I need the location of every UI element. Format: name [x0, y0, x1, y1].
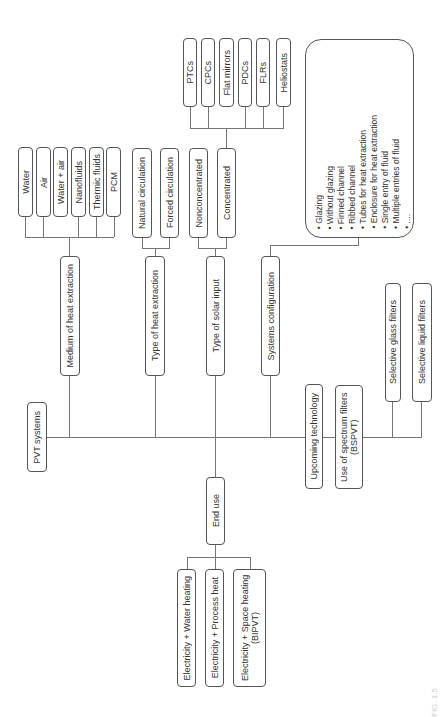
bracket: [270, 245, 359, 246]
category-label: Systems configuration: [266, 272, 276, 361]
connector: [69, 376, 70, 437]
connector: [96, 217, 97, 237]
leaf-label: Flat mirrors: [222, 50, 232, 96]
leaf-pcm: PCM: [106, 147, 121, 217]
category-upcoming-technology: Upcoming technology: [305, 384, 323, 489]
category-systems-configuration: Systems configuration: [261, 256, 280, 376]
connector: [142, 238, 143, 248]
leaf-ptcs: PTCs: [183, 38, 197, 107]
leaf-label: FLRs: [258, 62, 268, 84]
category-label: Medium of heat extraction: [65, 264, 75, 368]
leaf-water: Water: [18, 147, 33, 217]
root-node-pvt-systems: PVT systems: [27, 402, 47, 472]
connector: [155, 376, 156, 437]
connector: [198, 238, 199, 248]
leaf-nonconcentrated: Nonconcentrated: [189, 148, 208, 238]
connector: [43, 217, 44, 237]
leaf-selective-liquid-filters: Selective liquid filters: [412, 283, 432, 402]
leaf-label: Electricity + Water heating: [182, 576, 192, 680]
leaf-water-air: Water + air: [53, 147, 68, 217]
list-item: ....: [402, 214, 413, 229]
leaf-pdcs: PDCs: [238, 38, 252, 107]
leaf-label: Nonconcentrated: [194, 159, 204, 228]
connector: [215, 376, 216, 437]
list-item: Multiple entries of fluid: [391, 139, 402, 229]
leaf-electricity-process-heat: Electricity + Process heat: [205, 569, 224, 687]
leaf-label: Selective liquid filters: [417, 300, 427, 384]
connector: [114, 217, 115, 237]
connector: [155, 248, 156, 256]
leaf-label: Forced circulation: [165, 157, 175, 228]
list-item: Ribbed channel: [347, 165, 358, 229]
category-heat-extraction: Type of heat extraction: [145, 256, 165, 376]
connector: [69, 237, 70, 256]
bracket: [142, 248, 170, 249]
list-item: Enclosure for heat extraction: [369, 115, 380, 229]
list-item: Tubes for heat extraction: [358, 130, 369, 229]
connector: [421, 402, 422, 437]
connector: [245, 107, 246, 128]
configuration-options-list: Glazing Without glazing Finned channel R…: [305, 39, 414, 238]
leaf-label: PDCs: [240, 61, 250, 85]
connector: [358, 237, 359, 245]
pvt-classification-diagram: PVT systems Medium of heat extraction Wa…: [0, 0, 442, 717]
connector: [78, 217, 79, 237]
category-end-use: End use: [206, 477, 225, 545]
trunk-line: [47, 437, 422, 438]
leaf-label: Natural circulation: [137, 157, 147, 229]
bracket: [198, 248, 227, 249]
leaf-label: Water + air: [56, 160, 66, 204]
leaf-forced-circulation: Forced circulation: [160, 148, 179, 238]
connector: [208, 107, 209, 128]
bracket: [190, 128, 284, 129]
connector: [190, 107, 191, 128]
connector: [250, 557, 251, 569]
leaf-electricity-water-heating: Electricity + Water heating: [177, 569, 196, 687]
category-label: Type of solar input: [211, 279, 221, 353]
category-label: Upcoming technology: [309, 393, 319, 480]
leaf-flrs: FLRs: [256, 38, 270, 107]
category-solar-input: Type of solar input: [206, 256, 225, 376]
leaf-concentrated: Concentrated: [217, 148, 236, 238]
leaf-label: PTCs: [185, 61, 195, 84]
connector: [25, 217, 26, 237]
leaf-label: CPCs: [203, 61, 213, 85]
category-label: End use: [211, 494, 221, 527]
list-item: Single entry of fluid: [380, 151, 391, 229]
connector: [226, 128, 227, 148]
leaf-label: Electricity + Process heat: [210, 577, 220, 678]
leaf-label: Electricity + Space heating (BIPVT): [240, 574, 260, 682]
bracket: [25, 237, 114, 238]
leaf-selective-glass-filters: Selective glass filters: [385, 283, 401, 402]
connector: [270, 376, 271, 437]
leaf-natural-circulation: Natural circulation: [132, 148, 152, 238]
leaf-label: Water: [21, 170, 31, 194]
leaf-label: Heliostats: [279, 53, 289, 93]
leaf-label: Selective glass filters: [388, 300, 398, 384]
connector: [215, 248, 216, 256]
leaf-flat-mirrors: Flat mirrors: [219, 38, 234, 107]
list-item: Glazing: [314, 195, 325, 229]
connector: [283, 107, 284, 128]
category-label: Type of heat extraction: [150, 270, 160, 361]
leaf-label: Nanofluids: [74, 161, 84, 204]
leaf-air: Air: [36, 147, 51, 217]
connector: [226, 238, 227, 248]
list-item: Finned channel: [336, 166, 347, 229]
connector: [263, 107, 264, 128]
leaf-label: Air: [39, 177, 49, 188]
figure-caption: FIG. 1.5: [430, 450, 442, 717]
leaf-label: Thermic fluids: [92, 154, 102, 210]
node-label: Use of spectrum filters (BSPVT): [339, 389, 359, 485]
leaf-nanofluids: Nanofluids: [71, 147, 86, 217]
connector: [187, 557, 188, 569]
node-spectrum-filters: Use of spectrum filters (BSPVT): [335, 385, 363, 489]
category-medium: Medium of heat extraction: [60, 256, 80, 376]
root-label: PVT systems: [32, 411, 42, 464]
leaf-thermic-fluids: Thermic fluids: [89, 147, 104, 217]
list-item: Without glazing: [325, 166, 336, 229]
connector: [215, 437, 216, 477]
leaf-cpcs: CPCs: [201, 38, 215, 107]
connector: [270, 245, 271, 256]
connector: [392, 402, 393, 437]
